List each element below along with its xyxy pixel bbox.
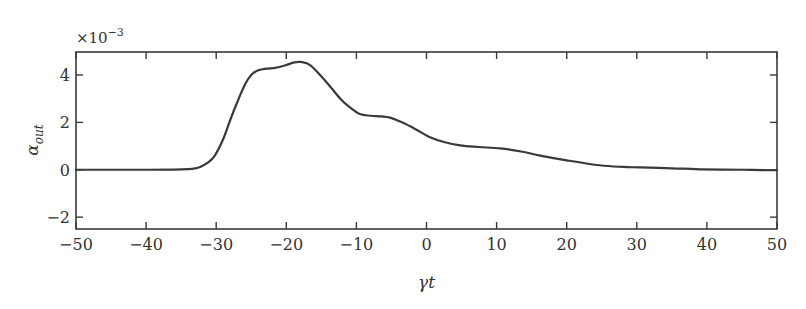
line-chart: −50−40−30−20−1001020304050−2024 ×10−3 γt… [0,0,806,309]
y-tick-label: −2 [46,208,70,227]
y-axis-label-subscript: out [32,124,46,144]
x-tick-label: 0 [421,235,431,254]
x-tick-label: 10 [486,235,506,254]
x-tick-label: −40 [129,235,163,254]
x-tick-label: −10 [340,235,374,254]
x-tick-label: 40 [697,235,717,254]
x-tick-label: 50 [767,235,787,254]
x-tick-label: 30 [627,235,647,254]
y-scale-exponent: −3 [108,26,124,39]
tick-labels: −50−40−30−20−1001020304050−2024 [46,66,787,254]
x-tick-label: −30 [199,235,233,254]
y-tick-label: 4 [60,66,70,85]
x-tick-label: −20 [269,235,303,254]
y-scale-label: ×10−3 [76,26,124,47]
x-tick-label: 20 [557,235,577,254]
y-tick-label: 2 [60,113,70,132]
series-line-alpha-out [76,62,777,170]
y-tick-label: 0 [60,161,70,180]
plot-frame [76,52,777,229]
x-tick-label: −50 [59,235,93,254]
y-axis-label-main: α [22,144,42,156]
axis-ticks [76,52,777,229]
y-axis-label: αout [22,124,46,155]
svg-text:αout: αout [22,124,46,155]
y-scale-prefix: ×10 [76,29,108,47]
x-axis-label: γt [418,272,435,292]
